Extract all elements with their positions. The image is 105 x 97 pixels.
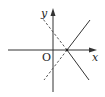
coordinate-diagram: y x O xyxy=(0,0,105,97)
intersection-point xyxy=(66,49,69,52)
y-axis-label: y xyxy=(40,7,48,20)
origin-label: O xyxy=(42,51,51,64)
y-axis-arrow-icon xyxy=(51,8,56,16)
x-axis-label: x xyxy=(92,51,99,64)
